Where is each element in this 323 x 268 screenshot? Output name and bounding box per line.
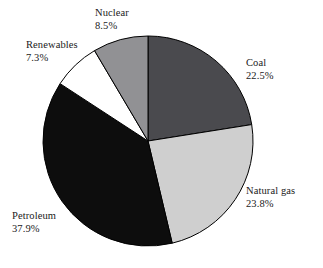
pie-label-nuclear: Nuclear 8.5%: [95, 7, 129, 32]
pie-label-natural-gas-name: Natural gas: [246, 185, 295, 198]
pie-label-petroleum-value: 37.9%: [12, 223, 56, 236]
pie-label-coal: Coal 22.5%: [246, 57, 274, 82]
pie-label-petroleum-name: Petroleum: [12, 210, 56, 223]
pie-label-petroleum: Petroleum 37.9%: [12, 210, 56, 235]
pie-label-coal-name: Coal: [246, 57, 274, 70]
pie-slice-group: [43, 36, 253, 246]
pie-label-renewables-value: 7.3%: [26, 52, 78, 65]
pie-label-nuclear-value: 8.5%: [95, 20, 129, 33]
pie-label-nuclear-name: Nuclear: [95, 7, 129, 20]
pie-slice-coal: [148, 36, 252, 141]
pie-label-renewables: Renewables 7.3%: [26, 39, 78, 64]
pie-label-coal-value: 22.5%: [246, 70, 274, 83]
pie-chart: Coal 22.5% Natural gas 23.8% Petroleum 3…: [0, 0, 323, 268]
pie-label-renewables-name: Renewables: [26, 39, 78, 52]
pie-label-natural-gas-value: 23.8%: [246, 198, 295, 211]
pie-label-natural-gas: Natural gas 23.8%: [246, 185, 295, 210]
